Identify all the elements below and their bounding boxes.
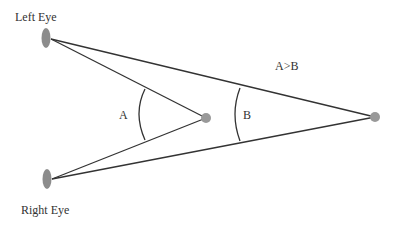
sight-line-left-to-near	[51, 39, 206, 118]
right-eye-label: Right Eye	[21, 203, 69, 217]
sight-line-right-to-far	[52, 117, 375, 179]
convergence-angle-diagram: Left Eye Right Eye A B A>B	[0, 0, 398, 227]
sight-line-left-to-far	[51, 39, 375, 117]
angle-a-label: A	[119, 108, 128, 122]
left-eye-label: Left Eye	[15, 10, 57, 24]
near-target-point	[201, 113, 211, 123]
far-target-point	[370, 112, 380, 122]
sight-line-right-to-near	[52, 118, 206, 179]
angle-b-label: B	[243, 108, 251, 122]
angle-arc-b	[235, 88, 240, 141]
right-eye-icon	[43, 169, 52, 189]
angle-arc-a	[139, 89, 145, 140]
relation-label: A>B	[275, 59, 298, 73]
left-eye-icon	[42, 28, 51, 48]
